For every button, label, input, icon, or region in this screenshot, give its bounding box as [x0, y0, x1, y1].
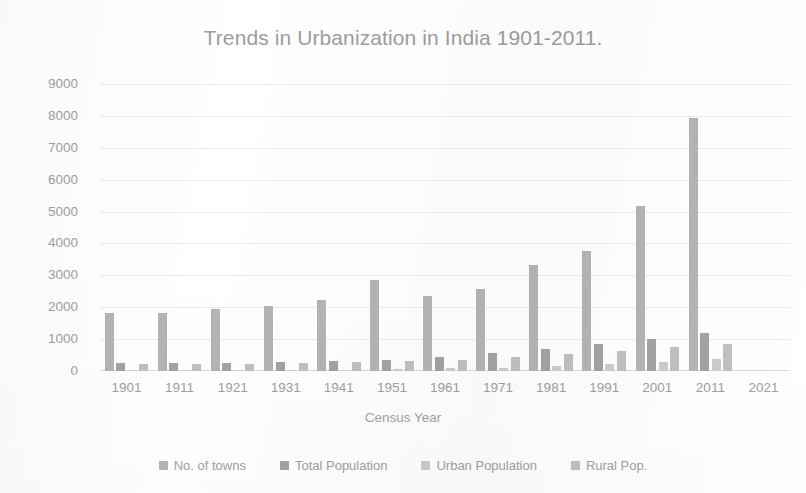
x-axis-tick-label: 2011: [680, 380, 740, 395]
legend-swatch-icon: [571, 461, 580, 470]
legend-item[interactable]: No. of towns: [159, 458, 246, 473]
bar-group: [264, 84, 308, 371]
chart-legend: No. of townsTotal PopulationUrban Popula…: [0, 458, 806, 473]
y-axis-tick-label: 7000: [22, 141, 78, 155]
x-axis-tick-label: 1931: [256, 380, 316, 395]
x-axis-tick-label: 2001: [627, 380, 687, 395]
bar: [723, 344, 732, 371]
bar-group: [317, 84, 361, 371]
bar-group: [370, 84, 414, 371]
bar-group: [105, 84, 149, 371]
bar: [617, 351, 626, 371]
bar: [564, 354, 573, 371]
bar: [511, 357, 520, 371]
bar: [128, 370, 137, 371]
legend-item[interactable]: Total Population: [280, 458, 388, 473]
bar: [317, 300, 326, 371]
x-axis-tick-label: 1901: [97, 380, 157, 395]
x-axis-tick-label: 1911: [150, 380, 210, 395]
chart-title: Trends in Urbanization in India 1901-201…: [0, 26, 806, 50]
bar: [435, 357, 444, 371]
x-axis-title: Census Year: [0, 410, 806, 425]
bar-group: [689, 84, 733, 371]
y-axis-tick-label: 1000: [22, 332, 78, 346]
bar: [605, 364, 614, 371]
y-axis-tick-label: 4000: [22, 237, 78, 251]
bar: [222, 363, 231, 371]
bar: [670, 347, 679, 371]
bar: [582, 251, 591, 371]
bar: [499, 368, 508, 371]
bar: [264, 306, 273, 371]
bar: [287, 370, 296, 371]
legend-label: Rural Pop.: [586, 458, 647, 473]
bar: [211, 309, 220, 371]
legend-item[interactable]: Urban Population: [421, 458, 536, 473]
x-axis-tick-label: 1991: [574, 380, 634, 395]
bar: [541, 349, 550, 371]
x-axis-tick-label: 1981: [521, 380, 581, 395]
y-axis-tick-label: 8000: [22, 109, 78, 123]
bar-group: [529, 84, 573, 371]
legend-swatch-icon: [421, 461, 430, 470]
bar: [476, 289, 485, 371]
x-axis-tick-label: 1971: [468, 380, 528, 395]
x-axis-tick-label: 1941: [309, 380, 369, 395]
legend-swatch-icon: [159, 461, 168, 470]
bar-group: [211, 84, 255, 371]
bar: [647, 339, 656, 371]
bar: [529, 265, 538, 371]
bar: [636, 206, 645, 371]
bar: [352, 362, 361, 371]
bar: [712, 359, 721, 371]
bar: [116, 363, 125, 371]
bar: [689, 118, 698, 371]
bar-group: [636, 84, 680, 371]
bar-group: [476, 84, 520, 371]
bar: [276, 362, 285, 371]
plot-area: 9000800070006000500040003000200010000: [100, 84, 790, 371]
bar: [594, 344, 603, 371]
x-axis-tick-label: 1951: [362, 380, 422, 395]
y-axis-tick-label: 6000: [22, 173, 78, 187]
y-axis-tick-label: 0: [22, 364, 78, 378]
bar: [192, 364, 201, 371]
y-axis-tick-label: 2000: [22, 300, 78, 314]
bar: [423, 296, 432, 371]
bar: [700, 333, 709, 371]
bar: [245, 364, 254, 371]
legend-label: Urban Population: [436, 458, 536, 473]
bar-group: [158, 84, 202, 371]
bar: [340, 370, 349, 371]
legend-label: No. of towns: [174, 458, 246, 473]
y-axis-tick-label: 5000: [22, 205, 78, 219]
bar: [382, 360, 391, 371]
legend-swatch-icon: [280, 461, 289, 470]
bar: [234, 370, 243, 371]
x-axis-tick-label: 2021: [733, 380, 793, 395]
y-axis-tick-label: 9000: [22, 77, 78, 91]
bar: [659, 362, 668, 371]
legend-label: Total Population: [295, 458, 388, 473]
bar: [488, 353, 497, 371]
bar: [393, 369, 402, 371]
y-axis-tick-label: 3000: [22, 269, 78, 283]
bar-group: [423, 84, 467, 371]
legend-item[interactable]: Rural Pop.: [571, 458, 647, 473]
bar: [329, 361, 338, 371]
bar: [181, 370, 190, 371]
bar: [446, 368, 455, 371]
x-axis-tick-label: 1961: [415, 380, 475, 395]
bar: [552, 366, 561, 371]
bar: [405, 361, 414, 371]
bar: [105, 313, 114, 371]
bar: [139, 364, 148, 371]
bar-group: [742, 84, 786, 371]
bar: [458, 360, 467, 371]
bar: [370, 280, 379, 371]
bar: [158, 313, 167, 371]
bar: [299, 363, 308, 371]
chart-container: Trends in Urbanization in India 1901-201…: [0, 0, 806, 493]
bar: [169, 363, 178, 371]
x-axis-tick-label: 1921: [203, 380, 263, 395]
